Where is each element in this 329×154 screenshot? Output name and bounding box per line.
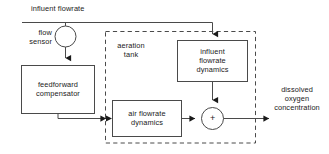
feedforward-compensator-label: feedforward compensator [21, 80, 95, 98]
air-flowrate-dynamics-label: air flowrate dynamics [112, 109, 182, 127]
block-diagram-canvas: influent flowrate flow sensor feedforwar… [0, 0, 329, 154]
flow-sensor-label: flow sensor [0, 28, 52, 46]
dissolved-oxygen-concentration-label: dissolved oxygen concentration [266, 85, 328, 113]
compensator-to-air-dynamics-line [58, 114, 106, 119]
diagram-vector-layer [0, 0, 329, 154]
flow-sensor-block [55, 26, 76, 47]
influent-flowrate-dynamics-label: influent flowrate dynamics [177, 47, 248, 75]
summing-junction-plus-label: + [210, 114, 215, 123]
influent-flowrate-label: influent flowrate [31, 4, 84, 13]
aeration-tank-label: aeration tank [111, 41, 151, 59]
